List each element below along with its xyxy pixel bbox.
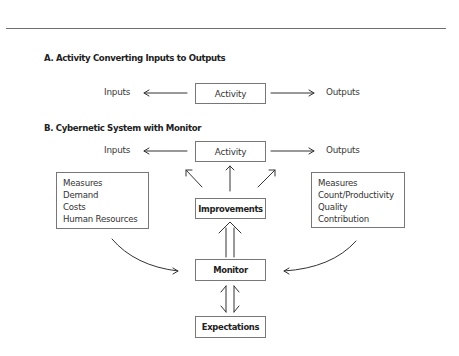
b-outputs-arrow-icon xyxy=(271,148,314,154)
output-measures-to-monitor-arrow-icon xyxy=(284,241,356,274)
b-inputs-arrow-icon xyxy=(144,148,187,154)
a-outputs-arrow-icon xyxy=(271,90,314,96)
improvement-to-inputs-arrow-icon xyxy=(186,170,202,187)
a-inputs-arrow-icon xyxy=(144,90,187,96)
monitor-expectations-bidirectional-arrow-icon xyxy=(221,286,239,312)
input-measures-to-monitor-arrow-icon xyxy=(112,239,178,274)
monitor-to-improvements-double-arrow-icon xyxy=(219,222,241,257)
improvement-to-outputs-arrow-icon xyxy=(258,170,275,187)
connector-arrows xyxy=(0,0,459,356)
improvement-to-activity-arrow-icon xyxy=(226,166,234,191)
